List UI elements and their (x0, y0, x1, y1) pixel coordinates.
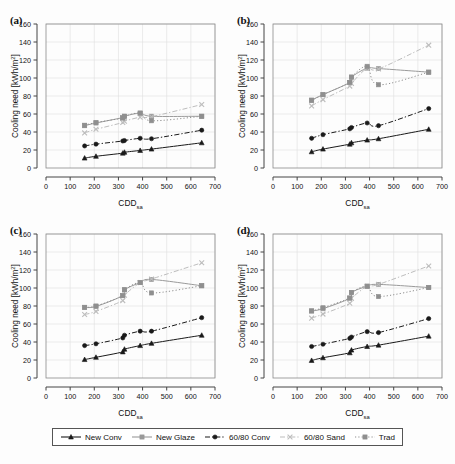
data-point (94, 304, 98, 308)
y-tick-label: 160 (19, 20, 31, 29)
data-point (310, 136, 314, 140)
legend-item-new-glaze[interactable]: New Glaze (131, 432, 195, 442)
x-tick-label: 200 (88, 182, 100, 191)
series-line (85, 279, 202, 307)
series-line (312, 45, 429, 106)
y-tick-label: 0 (254, 164, 258, 173)
plot-area: 0204060801001201401600100200300400500600… (0, 4, 227, 214)
legend-item-new-conv[interactable]: New Conv (60, 432, 122, 442)
x-tick-label: 300 (339, 392, 351, 401)
data-point (149, 329, 153, 333)
data-point (122, 333, 126, 337)
y-tick-label: 100 (246, 74, 258, 83)
y-tick-label: 80 (250, 302, 258, 311)
data-point (309, 316, 314, 321)
x-tick-label: 100 (64, 392, 76, 401)
y-tick-label: 0 (27, 374, 31, 383)
legend-square-icon (131, 432, 153, 442)
y-tick-label: 160 (19, 230, 31, 239)
y-axis-title: Cooling need [kWh/m2] (237, 54, 247, 138)
data-point (138, 281, 142, 285)
data-point (349, 290, 353, 294)
y-tick-label: 140 (246, 38, 258, 47)
x-tick-label: 400 (137, 392, 149, 401)
series-line (312, 286, 429, 311)
chart-panel-a: (a)0204060801001201401600100200300400500… (0, 4, 227, 214)
x-tick-label: 0 (271, 392, 275, 401)
data-point (427, 70, 431, 74)
y-tick-label: 20 (250, 146, 258, 155)
y-tick-label: 120 (246, 56, 258, 65)
series-line (312, 129, 429, 152)
data-point (321, 342, 325, 346)
figure-legend: New ConvNew Glaze60/80 Conv60/80 SandTra… (52, 428, 403, 446)
x-tick-label: 600 (185, 182, 197, 191)
series-line (85, 113, 202, 126)
x-tick-label: 0 (44, 182, 48, 191)
data-point (365, 330, 369, 334)
series-line (312, 109, 429, 139)
data-point (376, 294, 380, 298)
y-tick-label: 140 (246, 248, 258, 257)
data-point (348, 296, 352, 300)
y-tick-label: 40 (23, 128, 31, 137)
data-point (376, 124, 380, 128)
legend-triangle-icon (60, 432, 82, 442)
data-point (349, 125, 353, 129)
x-tick-label: 300 (112, 182, 124, 191)
data-point (94, 342, 98, 346)
panel-grid: (a)0204060801001201401600100200300400500… (0, 4, 455, 424)
y-tick-label: 20 (250, 356, 258, 365)
legend-item-c6080-conv[interactable]: 60/80 Conv (204, 432, 270, 442)
chart-panel-c: (c)0204060801001201401600100200300400500… (0, 214, 227, 424)
legend-item-trad[interactable]: Trad (354, 432, 395, 442)
legend-label: 60/80 Sand (304, 433, 345, 442)
y-tick-label: 60 (23, 110, 31, 119)
legend-label: Trad (379, 433, 395, 442)
data-point (347, 301, 352, 306)
series-line (85, 263, 202, 315)
data-point (321, 306, 325, 310)
data-point (200, 284, 204, 288)
y-tick-label: 80 (23, 92, 31, 101)
x-tick-label: 700 (209, 392, 221, 401)
x-tick-label: 200 (315, 182, 327, 191)
data-point (321, 133, 325, 137)
x-tick-label: 600 (412, 392, 424, 401)
x-tick-label: 700 (209, 182, 221, 191)
data-point (321, 93, 325, 97)
legend-square-icon (354, 432, 376, 442)
x-tick-label: 100 (64, 182, 76, 191)
series-line (312, 67, 429, 100)
y-tick-label: 60 (23, 320, 31, 329)
series-line (85, 113, 202, 125)
series-line (312, 266, 429, 318)
x-tick-label: 300 (112, 392, 124, 401)
data-point (122, 138, 126, 142)
data-point (140, 435, 144, 439)
x-tick-label: 100 (291, 392, 303, 401)
data-point (427, 285, 431, 289)
data-point (149, 291, 153, 295)
data-point (120, 298, 125, 303)
x-tick-label: 500 (161, 392, 173, 401)
data-point (94, 142, 98, 146)
x-tick-label: 600 (185, 392, 197, 401)
series-line (85, 335, 202, 359)
data-point (149, 119, 153, 123)
x-axis-title: CDDsa (345, 198, 370, 210)
data-point (138, 329, 142, 333)
y-tick-label: 0 (254, 374, 258, 383)
data-point (213, 435, 217, 439)
series-line (85, 143, 202, 158)
data-point (200, 316, 204, 320)
x-tick-label: 400 (364, 392, 376, 401)
series-line (312, 336, 429, 360)
legend-label: 60/80 Conv (229, 433, 270, 442)
data-point (349, 335, 353, 339)
data-point (138, 111, 142, 115)
legend-item-c6080-sand[interactable]: 60/80 Sand (279, 432, 345, 442)
data-point (426, 127, 431, 132)
y-tick-label: 80 (250, 92, 258, 101)
data-point (365, 284, 369, 288)
